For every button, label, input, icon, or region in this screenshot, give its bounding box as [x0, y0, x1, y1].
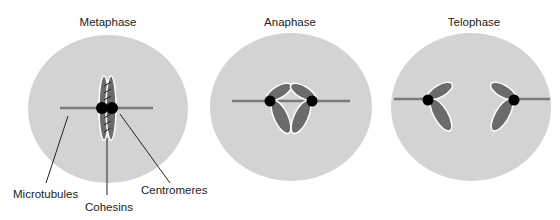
- anaphase-cell: [210, 33, 372, 181]
- centromere: [307, 96, 318, 107]
- cell-division-diagram: [0, 0, 560, 220]
- centromere: [106, 102, 118, 114]
- label-cohesins: Cohesins: [85, 201, 133, 213]
- metaphase-cell: [28, 35, 188, 195]
- panel-title-anaphase: Anaphase: [264, 16, 316, 28]
- panel-title-telophase: Telophase: [448, 16, 500, 28]
- panel-title-metaphase: Metaphase: [80, 16, 137, 28]
- centromere: [423, 95, 434, 106]
- label-microtubules: Microtubules: [13, 188, 78, 200]
- centromere: [509, 95, 520, 106]
- label-centromeres: Centromeres: [141, 184, 207, 196]
- centromere: [265, 96, 276, 107]
- telophase-cell: [391, 33, 551, 181]
